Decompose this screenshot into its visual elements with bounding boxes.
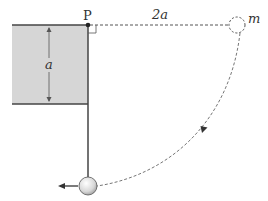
trajectory-arrow-icon	[201, 126, 208, 133]
mass-label: m	[248, 11, 260, 26]
pendulum-ball	[79, 177, 97, 195]
pivot-point	[86, 23, 91, 28]
block-height-label: a	[45, 57, 53, 72]
initial-ball-position	[229, 17, 245, 33]
distance-2a-label: 2a	[151, 7, 168, 22]
trajectory-arc	[97, 33, 240, 186]
pivot-label: P	[83, 8, 92, 23]
velocity-arrow-icon	[58, 183, 78, 189]
pendulum-diagram: a P 2a m	[0, 0, 268, 201]
